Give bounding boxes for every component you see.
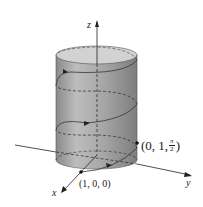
x-axis-label: x [52,188,56,198]
point-label-1-0-0: (1, 0, 0) [79,179,111,189]
y-axis-label: y [186,178,190,188]
x-arrow-icon [61,186,67,193]
frac-den: 2 [170,146,174,153]
cylinder-top [56,46,137,64]
point-label-0-1-pi2: (0, 1, π 2 ) [141,138,180,153]
z-arrow-icon [95,20,99,27]
y-axis-back [15,145,56,152]
fraction: π 2 [169,138,175,153]
point-0-1-pi2 [135,141,139,145]
z-axis-label: z [87,20,91,30]
label-suffix: ) [176,139,180,152]
label-prefix: (0, 1, [141,139,168,152]
helix-diagram [0,0,203,207]
y-axis-front [137,164,190,175]
point-1-0-0 [79,170,83,174]
